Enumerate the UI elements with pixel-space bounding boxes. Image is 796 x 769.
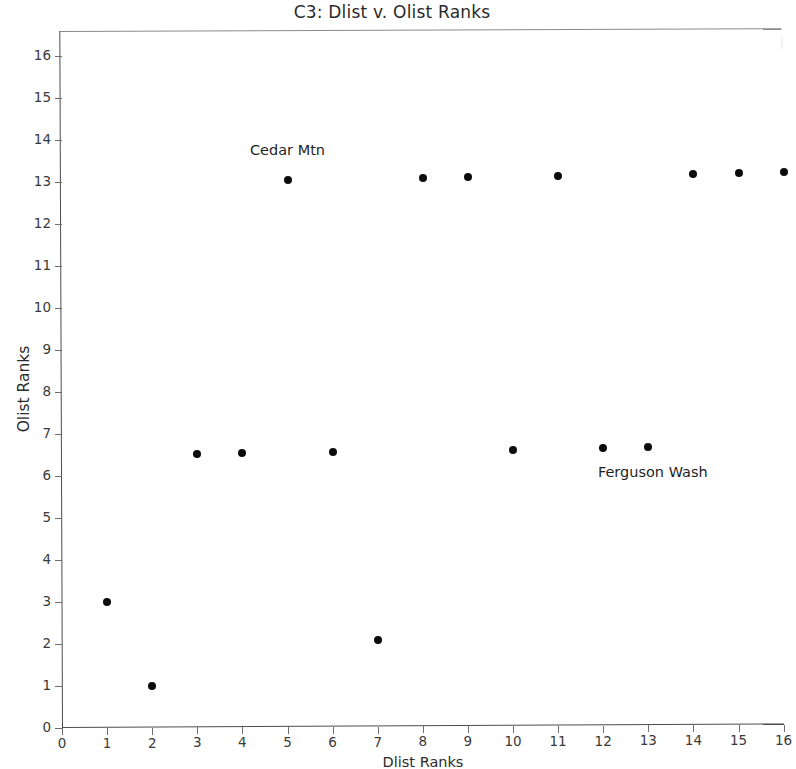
y-tick-mark	[55, 392, 62, 393]
y-tick-label: 13	[0, 175, 51, 189]
x-tick-mark	[558, 726, 559, 733]
x-tick-label: 8	[403, 735, 443, 749]
y-tick-mark	[55, 644, 62, 645]
point-annotation-label: Ferguson Wash	[598, 465, 708, 480]
x-tick-label: 3	[177, 736, 217, 750]
y-tick-label: 12	[0, 217, 51, 231]
x-tick-label: 12	[583, 735, 623, 749]
point-annotation-label: Cedar Mtn	[250, 143, 325, 158]
y-tick-mark	[55, 350, 62, 351]
x-tick-label: 2	[132, 737, 172, 751]
y-tick-label: 3	[0, 595, 51, 609]
data-point	[554, 172, 562, 180]
x-tick-mark	[288, 727, 289, 734]
x-tick-mark	[739, 725, 740, 732]
x-tick-label: 16	[764, 734, 796, 748]
x-tick-label: 10	[493, 735, 533, 749]
data-point	[735, 169, 743, 177]
x-tick-mark	[152, 728, 153, 735]
y-tick-mark	[55, 602, 62, 603]
x-tick-mark	[784, 725, 785, 732]
x-tick-mark	[468, 726, 469, 733]
x-tick-mark	[107, 728, 108, 735]
y-tick-mark	[55, 140, 62, 141]
x-tick-label: 5	[268, 736, 308, 750]
data-point	[193, 450, 201, 458]
y-tick-mark	[55, 308, 62, 309]
y-tick-label: 4	[0, 553, 51, 567]
y-tick-label: 16	[0, 49, 51, 63]
x-tick-label: 13	[628, 734, 668, 748]
y-tick-mark	[55, 182, 62, 183]
x-tick-mark	[333, 727, 334, 734]
x-tick-mark	[648, 725, 649, 732]
x-tick-label: 4	[222, 736, 262, 750]
x-tick-mark	[603, 726, 604, 733]
x-tick-mark	[423, 726, 424, 733]
x-tick-label: 11	[538, 735, 578, 749]
data-point	[419, 174, 427, 182]
x-tick-label: 0	[42, 737, 82, 751]
y-tick-mark	[55, 728, 62, 729]
plot-area	[59, 28, 784, 728]
x-tick-mark	[197, 727, 198, 734]
x-tick-mark	[378, 727, 379, 734]
chart-title: C3: Dlist v. Olist Ranks	[0, 2, 784, 22]
x-axis-label: Dlist Ranks	[62, 754, 784, 769]
y-tick-label: 1	[0, 679, 51, 693]
x-tick-mark	[693, 725, 694, 732]
y-axis-label: Olist Ranks	[15, 319, 33, 459]
data-point	[148, 682, 156, 690]
x-tick-label: 9	[448, 735, 488, 749]
y-tick-mark	[55, 224, 62, 225]
x-tick-label: 6	[313, 736, 353, 750]
y-tick-label: 15	[0, 91, 51, 105]
x-tick-label: 15	[719, 734, 759, 748]
x-tick-label: 14	[673, 734, 713, 748]
y-tick-mark	[55, 266, 62, 267]
data-point	[329, 448, 337, 456]
data-point	[103, 598, 111, 606]
x-tick-mark	[242, 727, 243, 734]
y-tick-mark	[55, 434, 62, 435]
y-tick-label: 11	[0, 259, 51, 273]
y-tick-mark	[55, 686, 62, 687]
x-tick-label: 1	[87, 737, 127, 751]
y-tick-label: 5	[0, 511, 51, 525]
y-tick-mark	[55, 56, 62, 57]
y-tick-label: 14	[0, 133, 51, 147]
data-point	[284, 176, 292, 184]
x-tick-label: 7	[358, 736, 398, 750]
y-tick-label: 2	[0, 637, 51, 651]
x-tick-mark	[513, 726, 514, 733]
y-tick-mark	[55, 560, 62, 561]
y-tick-label: 0	[0, 721, 51, 735]
x-tick-mark	[62, 728, 63, 735]
y-tick-mark	[55, 518, 62, 519]
y-tick-mark	[55, 98, 62, 99]
data-point	[509, 446, 517, 454]
y-tick-label: 6	[0, 469, 51, 483]
data-point	[780, 168, 788, 176]
y-tick-label: 10	[0, 301, 51, 315]
y-tick-mark	[55, 476, 62, 477]
